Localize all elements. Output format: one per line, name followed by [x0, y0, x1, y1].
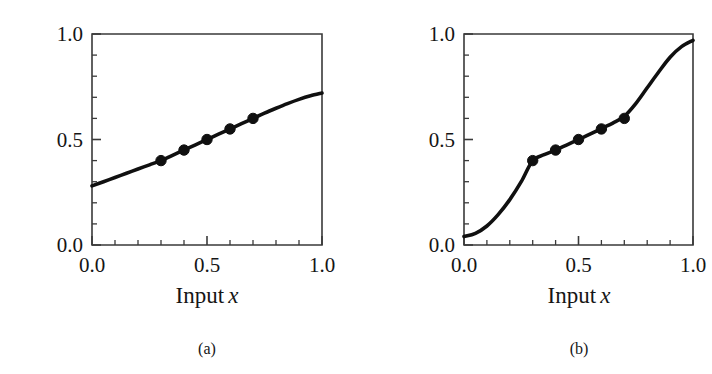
data-point-marker: [248, 113, 258, 123]
x-axis-label-var-b: x: [596, 283, 610, 308]
panel-a: 0.00.51.00.00.51.0 Outputy Inputx (a): [0, 0, 356, 374]
y-axis-tick-label: 0.5: [57, 128, 83, 152]
data-point-marker: [179, 145, 189, 155]
data-point-marker: [596, 124, 606, 134]
x-axis-label-var-a: x: [224, 283, 238, 308]
y-axis-label-a: Outputy: [10, 0, 44, 33]
x-axis-label-b: Inputx: [464, 283, 694, 309]
x-axis-label-text-a: Input: [176, 283, 225, 308]
panel-caption-b: (b): [464, 340, 694, 358]
x-axis-tick-label: 0.5: [565, 253, 591, 277]
figure-sheet: 0.00.51.00.00.51.0 Outputy Inputx (a) 0.…: [0, 0, 712, 374]
y-axis-tick-label: 1.0: [57, 22, 83, 46]
y-axis-tick-label: 0.5: [429, 128, 455, 152]
data-point-marker: [550, 145, 560, 155]
x-axis-tick-label: 1.0: [680, 253, 706, 277]
x-axis-tick-label: 0.5: [194, 253, 220, 277]
x-axis-label-text-b: Input: [548, 283, 597, 308]
y-axis-tick-label: 0.0: [57, 233, 83, 257]
data-point-marker: [202, 134, 212, 144]
data-point-marker: [619, 113, 629, 123]
panel-caption-a: (a): [92, 340, 322, 358]
panel-b: 0.00.51.00.00.51.0 Outputy Inputx (b): [356, 0, 712, 374]
x-axis-label-a: Inputx: [92, 283, 322, 309]
data-point-marker: [225, 124, 235, 134]
y-axis-tick-label: 1.0: [429, 22, 455, 46]
data-point-marker: [528, 155, 538, 165]
y-axis-tick-label: 0.0: [429, 233, 455, 257]
data-point-marker: [573, 134, 583, 144]
data-point-marker: [156, 155, 166, 165]
x-axis-tick-label: 1.0: [309, 253, 335, 277]
tick-labels-b: 0.00.51.00.00.51.0: [429, 22, 706, 277]
tick-labels-a: 0.00.51.00.00.51.0: [57, 22, 335, 277]
plot-b: 0.00.51.00.00.51.0: [356, 0, 712, 300]
plot-a: 0.00.51.00.00.51.0: [0, 0, 356, 300]
